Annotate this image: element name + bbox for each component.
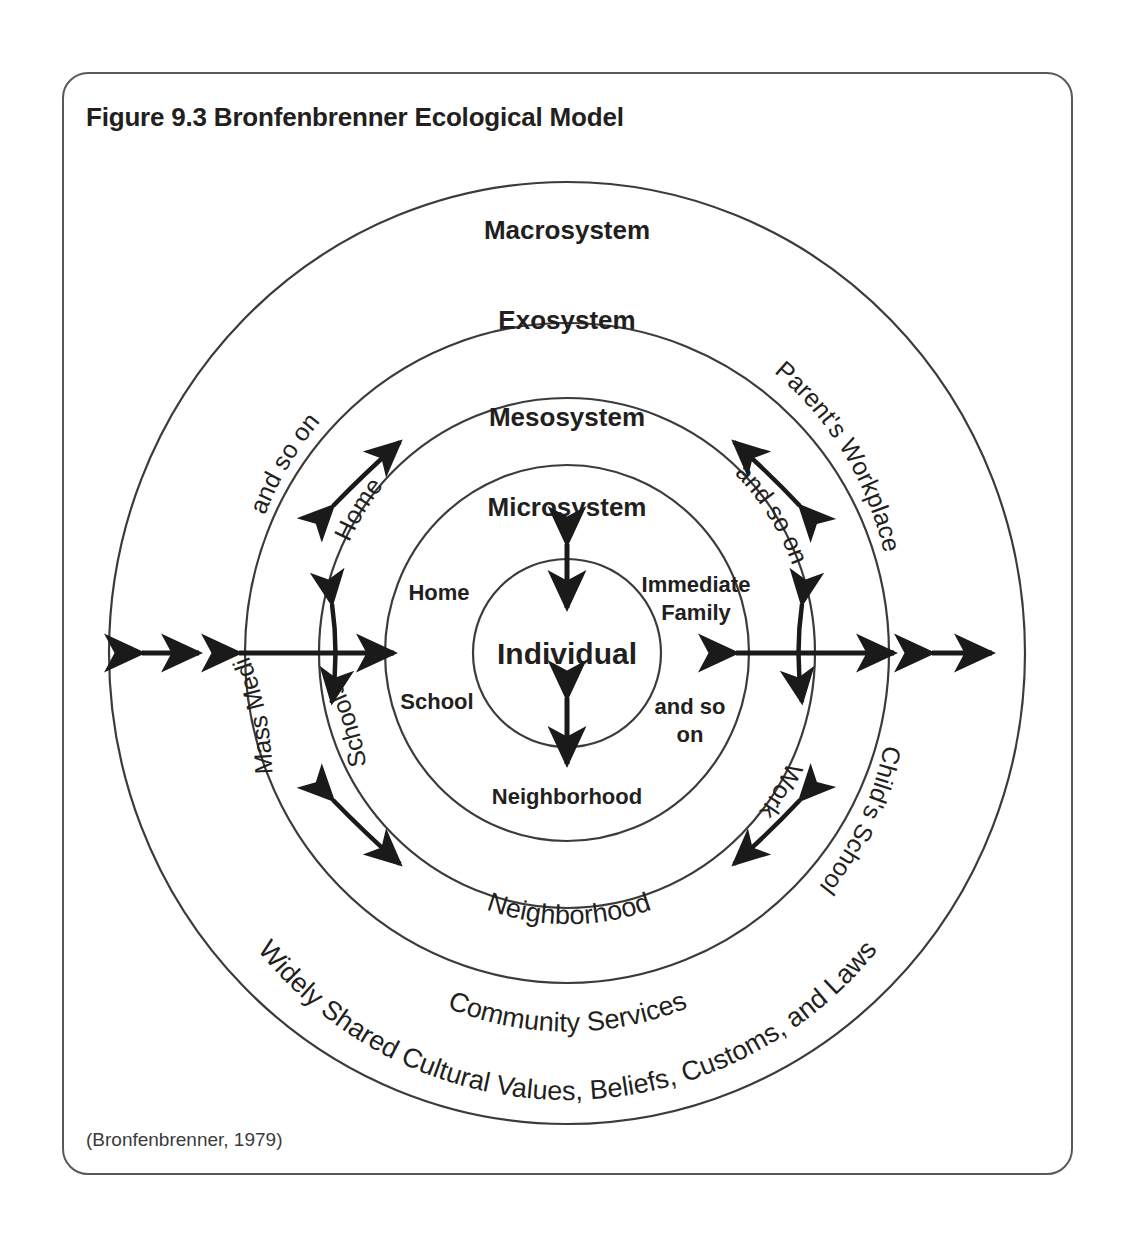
microsystem-label-immediate-family-line1: Immediate bbox=[642, 572, 751, 597]
figure-card: Figure 9.3 Bronfenbrenner Ecological Mod… bbox=[62, 72, 1073, 1175]
microsystem-label-neighborhood: Neighborhood bbox=[492, 784, 642, 809]
ring-label-mesosystem: Mesosystem bbox=[489, 402, 645, 432]
bronfenbrenner-ecological-model-diagram: Macrosystem Exosystem Mesosystem Microsy… bbox=[64, 74, 1075, 1177]
exosystem-label-mass-media: Mass Media bbox=[64, 74, 277, 775]
microsystem-label-home: Home bbox=[408, 580, 469, 605]
ring-label-macrosystem: Macrosystem bbox=[484, 215, 650, 245]
microsystem-label-and-so-on-line1: and so bbox=[655, 694, 726, 719]
ring-label-microsystem: Microsystem bbox=[488, 492, 647, 522]
microsystem-label-school: School bbox=[400, 689, 473, 714]
microsystem-label-immediate-family-line2: Family bbox=[661, 600, 731, 625]
individual-label: Individual bbox=[497, 637, 637, 670]
exosystem-label-community-services: Community Services bbox=[445, 985, 691, 1037]
mesosystem-label-schools: Schools bbox=[319, 679, 371, 770]
mesosystem-label-work: Work bbox=[754, 759, 808, 825]
mesosystem-label-and-so-on: and so on bbox=[731, 458, 814, 568]
figure-citation: (Bronfenbrenner, 1979) bbox=[86, 1129, 282, 1151]
mesosystem-label-neighborhood: Neighborhood bbox=[484, 887, 654, 931]
ring-label-exosystem: Exosystem bbox=[498, 305, 635, 335]
microsystem-label-and-so-on-line2: on bbox=[677, 722, 704, 747]
exosystem-label-childs-school: Child's School bbox=[815, 744, 907, 901]
exosystem-label-and-so-on: and so on bbox=[243, 407, 324, 517]
